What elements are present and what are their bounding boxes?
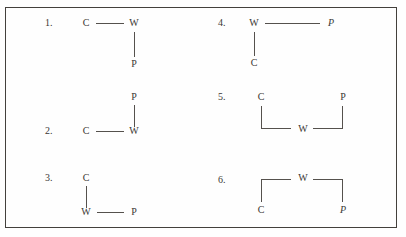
item-number-3: 3. [45, 173, 53, 183]
item-6-node-p: P [337, 205, 349, 215]
item-6-node-c: C [255, 205, 267, 215]
item-number-4: 4. [218, 18, 226, 28]
item-5-node-c: C [255, 92, 267, 102]
item-5-node-p: P [337, 92, 349, 102]
item-3-edge-w-p [97, 212, 124, 213]
item-number-2: 2. [45, 126, 53, 136]
item-4-node-c: C [248, 58, 260, 68]
item-5-edge-c-w [261, 106, 291, 129]
item-6-edge-w-c [261, 179, 291, 202]
item-4-node-w: W [248, 18, 260, 28]
figure-frame: 1. C W P P 2. C W 3. C W P 4. W [5, 7, 397, 228]
item-2-edge-c-w [96, 131, 124, 132]
item-1-edge-c-w [96, 23, 124, 24]
item-number-1: 1. [45, 18, 53, 28]
item-1-node-c: C [80, 18, 92, 28]
item-4-edge-w-c [254, 32, 255, 56]
item-3-edge-c-w [86, 186, 87, 208]
item-3-node-p: P [128, 207, 140, 217]
item-2-edge-p-w [134, 105, 135, 127]
item-4-node-p: P [325, 18, 337, 28]
item-6-edge-w-p [313, 179, 343, 202]
item-3-node-w: W [80, 207, 92, 217]
item-5-node-w: W [297, 124, 309, 134]
item-1-node-w: W [128, 18, 140, 28]
item-3-node-c: C [80, 173, 92, 183]
item-2-node-p: P [128, 92, 140, 102]
item-6-node-w: W [297, 173, 309, 183]
item-1-edge-w-p [134, 32, 135, 57]
item-number-5: 5. [218, 92, 226, 102]
item-2-node-c: C [80, 126, 92, 136]
item-4-edge-w-p [265, 23, 320, 24]
figure-canvas: 1. C W P P 2. C W 3. C W P 4. W [0, 0, 406, 237]
item-5-edge-p-w [313, 106, 343, 129]
item-2-node-w: W [128, 126, 140, 136]
item-number-6: 6. [218, 175, 226, 185]
item-1-node-p: P [128, 59, 140, 69]
